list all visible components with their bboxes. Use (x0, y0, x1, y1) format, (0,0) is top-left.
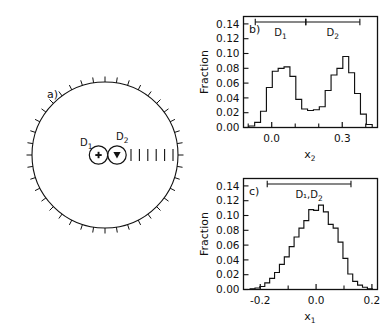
circle-tick (177, 143, 182, 144)
circle-tick (93, 77, 94, 82)
circle-tick (41, 198, 45, 201)
panel-b-y-axis-label: Fraction (198, 50, 211, 94)
range-label: D₁,D2 (295, 189, 323, 203)
circle-tick (93, 227, 94, 232)
panel-c-histogram: 0.000.020.040.060.080.100.120.14 -0.20.0… (198, 179, 380, 326)
circle-tick (27, 143, 32, 144)
detector-d2-label: D2 (116, 131, 129, 145)
circle-tick (116, 77, 117, 82)
panel-c-label: c) (249, 185, 259, 198)
circle-tick (81, 224, 83, 229)
circle-tick (35, 188, 40, 190)
y-tick-label: 0.06 (216, 239, 240, 251)
circle-tick (138, 220, 140, 225)
panel-b-y-ticks (244, 24, 249, 128)
panel-c-y-tick-labels: 0.000.020.040.060.080.100.120.14 (216, 180, 240, 296)
x-tick-label: -0.2 (250, 294, 271, 306)
y-tick-label: 0.04 (216, 92, 240, 104)
beam-dash-line (131, 149, 173, 161)
y-tick-label: 0.08 (216, 62, 239, 74)
circle-tick (59, 214, 62, 218)
panel-b-histogram: 0.000.020.040.060.080.100.120.14 0.00.3 … (198, 17, 378, 164)
circle-tick (49, 207, 53, 211)
detector-d1-label: D1 (80, 137, 93, 151)
circle-tick (148, 91, 151, 95)
y-tick-label: 0.00 (216, 121, 239, 133)
y-tick-label: 0.14 (216, 180, 240, 192)
panel-b-x-axis-label: x2 (304, 148, 316, 163)
y-tick-label: 0.04 (216, 254, 240, 266)
circle-tick (164, 109, 168, 112)
circle-tick (138, 85, 140, 90)
circle-tick (30, 131, 35, 133)
detector-d2 (108, 146, 126, 164)
y-tick-label: 0.00 (216, 283, 239, 295)
y-tick-label: 0.10 (216, 209, 239, 221)
circle-tick (128, 224, 130, 229)
x-tick-label: 0.0 (263, 132, 280, 144)
panel-c-x-axis-label: x1 (304, 310, 316, 325)
panel-b-range-markers: D1D2 (255, 19, 360, 41)
circle-tick (41, 109, 45, 112)
circle-tick (69, 85, 71, 90)
x-tick-label: 0.2 (364, 294, 381, 306)
circle-tick (157, 207, 161, 211)
circle-tick (59, 91, 62, 95)
x-tick-label: 0.0 (308, 294, 325, 306)
panel-b-y-tick-labels: 0.000.020.040.060.080.100.120.14 (216, 18, 240, 134)
circle-tick (69, 220, 71, 225)
circle-tick (116, 227, 117, 232)
circle-tick (35, 119, 40, 121)
circle-tick (174, 131, 179, 133)
circle-tick (164, 198, 168, 201)
panel-b-histogram-steps (244, 56, 373, 127)
panel-b-x-ticks (248, 122, 366, 128)
scientific-figure: a) D1 D2 (0, 0, 390, 332)
panel-b-label: b) (249, 23, 260, 36)
circle-tick (170, 188, 175, 190)
panel-c-x-ticks (260, 284, 372, 290)
panel-c-range-markers: D₁,D2 (267, 181, 351, 203)
y-tick-label: 0.12 (216, 194, 239, 206)
y-tick-label: 0.12 (216, 32, 239, 44)
circle-tick (81, 80, 83, 85)
y-tick-label: 0.02 (216, 268, 239, 280)
panel-c-histogram-steps (245, 205, 372, 289)
circle-tick (157, 99, 161, 103)
figure-canvas: a) D1 D2 (0, 0, 390, 332)
circle-tick (148, 214, 151, 218)
panel-b-x-tick-labels: 0.00.3 (263, 132, 350, 144)
panel-c-y-axis-label: Fraction (198, 212, 211, 256)
circle-tick (177, 166, 182, 167)
panel-a-label: a) (47, 88, 58, 101)
range-label: D2 (327, 27, 340, 41)
panel-c-x-tick-labels: -0.20.00.2 (250, 294, 380, 306)
circle-tick (170, 119, 175, 121)
y-tick-label: 0.10 (216, 47, 239, 59)
panel-c-y-ticks (244, 186, 249, 290)
y-tick-label: 0.08 (216, 224, 239, 236)
y-tick-label: 0.02 (216, 106, 239, 118)
x-tick-label: 0.3 (334, 132, 351, 144)
circle-tick (174, 178, 179, 180)
y-tick-label: 0.14 (216, 18, 240, 30)
circle-tick (128, 80, 130, 85)
circle-tick (30, 178, 35, 180)
range-label: D1 (274, 27, 287, 41)
panel-a-diagram: a) D1 D2 (27, 77, 184, 234)
circle-tick (27, 166, 32, 167)
y-tick-label: 0.06 (216, 77, 240, 89)
